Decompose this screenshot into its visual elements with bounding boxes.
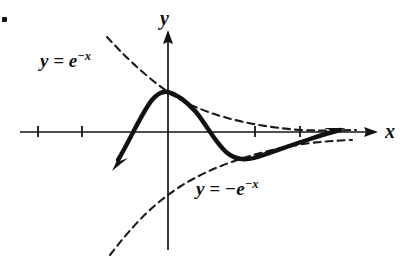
upper-envelope-label: y = e−x [40, 50, 91, 70]
lower-envelope-label: y = −e−x [196, 178, 259, 198]
graph-figure [0, 0, 404, 269]
y-axis [163, 30, 173, 250]
upper-envelope-curve [107, 37, 356, 130]
lower-envelope-exponent: −x [245, 177, 259, 191]
x-axis-label: x [385, 121, 395, 141]
y-axis-label: y [160, 8, 169, 28]
upper-envelope-exponent: −x [77, 49, 91, 63]
damped-oscillation-curve [118, 92, 340, 160]
